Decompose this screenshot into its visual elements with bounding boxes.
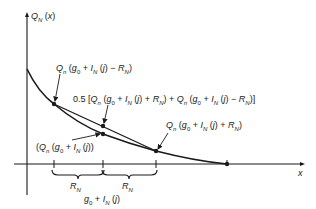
label-chord-mid: 0.5 [Qn (g0 + IN (j) + RN) + Qn (g0 + IN… (73, 94, 255, 108)
brace-left (52, 170, 104, 179)
point-lower (154, 149, 158, 153)
point-curve-mid (101, 132, 105, 136)
label-curve-mid: (Qn (g0 + IN (j)) (36, 142, 94, 156)
x-axis-label: x (298, 168, 303, 178)
leader-curve-mid (72, 134, 100, 140)
label-center-x: g0 + IN (j) (84, 194, 120, 208)
leader-upper (55, 74, 60, 101)
brace-right (102, 170, 157, 179)
x-axis-arrow-icon (300, 162, 305, 166)
label-brace-left: RN (70, 181, 81, 195)
y-axis-label: QN (x) (31, 11, 55, 25)
point-chord-mid (101, 124, 105, 128)
label-lower-point: Qn (g0 + IN (j) + RN) (166, 120, 242, 134)
point-upper (52, 102, 56, 106)
leader-lower (158, 133, 168, 149)
label-upper-point: Qn (g0 + IN (j) − RN) (56, 63, 132, 77)
y-axis-arrow-icon (25, 12, 29, 17)
label-brace-right: RN (122, 181, 133, 195)
